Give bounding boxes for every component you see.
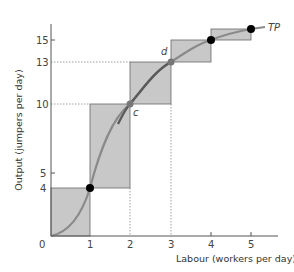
label-c: c <box>133 107 139 118</box>
x-tick-1: 1 <box>87 239 93 250</box>
marginal-product-bars <box>51 29 251 236</box>
bar-1 <box>51 188 90 236</box>
point-5-16 <box>247 25 255 33</box>
y-axis-title: Output (jumpers per day) <box>13 69 24 190</box>
bar-2 <box>90 104 130 188</box>
point-1-4 <box>86 184 94 192</box>
x-axis-title: Labour (workers per day) <box>176 253 294 264</box>
tp-curve <box>51 27 265 236</box>
x-tick-0: 0 <box>39 239 45 250</box>
point-4-15 <box>207 36 215 44</box>
x-tick-3: 3 <box>168 239 174 250</box>
y-tick-15: 15 <box>36 35 49 46</box>
label-tp: TP <box>268 22 281 33</box>
y-tick-10: 10 <box>36 99 49 110</box>
point-d <box>168 59 175 66</box>
total-product-chart: c d TP 15 13 10 5 4 0 1 2 3 4 5 Labour (… <box>0 0 294 272</box>
y-tick-4: 4 <box>40 183 46 194</box>
x-tick-4: 4 <box>208 239 214 250</box>
y-tick-13: 13 <box>36 57 49 68</box>
y-tick-5: 5 <box>40 168 46 179</box>
x-tick-2: 2 <box>127 239 133 250</box>
x-tick-5: 5 <box>248 239 254 250</box>
label-d: d <box>161 46 168 57</box>
